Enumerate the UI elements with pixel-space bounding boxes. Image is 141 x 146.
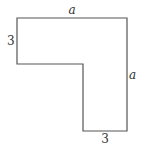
l-shape-diagram: a a 3 3 bbox=[0, 0, 141, 146]
top-side-label: a bbox=[68, 3, 75, 17]
right-side-label: a bbox=[129, 68, 136, 82]
bottom-side-label: 3 bbox=[101, 132, 109, 146]
l-shape-outline bbox=[17, 18, 127, 131]
left-side-label: 3 bbox=[7, 34, 15, 48]
